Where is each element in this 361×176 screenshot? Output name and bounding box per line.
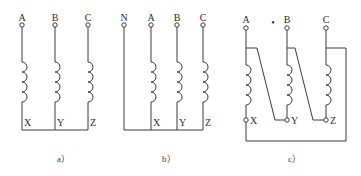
label-z: Z [90, 117, 96, 128]
label-b: B [284, 14, 291, 25]
coil-icon [177, 62, 182, 102]
caption-c: c） [288, 154, 301, 164]
phase-c-winding [201, 23, 208, 130]
caption-a: a） [57, 154, 70, 164]
label-c: C [323, 14, 330, 25]
label-a: A [147, 12, 155, 23]
label-y: Y [179, 117, 186, 128]
label-y: Y [291, 115, 298, 126]
diagram-c-delta: • A B C X Y Z c） [242, 14, 346, 164]
polarity-dot: • [271, 17, 275, 28]
terminal-b [285, 26, 289, 30]
neutral-conductor [122, 23, 126, 130]
terminal-a [244, 26, 248, 30]
link-a-to-y [246, 48, 285, 120]
label-b: B [52, 12, 59, 23]
terminal-c [201, 23, 205, 27]
coil-icon [55, 62, 60, 102]
phase-c-winding [324, 26, 331, 122]
coil-icon [246, 65, 251, 105]
terminal-b [175, 23, 179, 27]
coil-icon [326, 65, 331, 105]
phase-a-winding [149, 23, 156, 130]
link-b-to-z [287, 48, 324, 120]
coil-icon [203, 62, 208, 102]
coil-icon [287, 65, 292, 105]
label-n: N [120, 12, 127, 23]
diagram-b-star-neutral: N A B C X Y Z b） [120, 12, 211, 164]
label-y: Y [57, 117, 64, 128]
label-x: X [24, 117, 32, 128]
label-b: B [174, 12, 181, 23]
diagram-a-star: A B C X Y Z a） [18, 12, 96, 164]
label-x: X [153, 117, 161, 128]
terminal-y [285, 118, 289, 122]
terminal-a [149, 23, 153, 27]
terminal-n [122, 23, 126, 27]
label-z: Z [205, 117, 211, 128]
phase-b-winding [175, 23, 182, 130]
label-x: X [250, 115, 258, 126]
phase-b-winding [285, 26, 292, 122]
terminal-x [244, 118, 248, 122]
coil-icon [22, 62, 27, 102]
phase-b-winding [53, 23, 60, 130]
label-z: Z [330, 115, 336, 126]
terminal-c [324, 26, 328, 30]
terminal-b [53, 23, 57, 27]
coil-icon [88, 62, 93, 102]
label-a: A [18, 12, 26, 23]
label-c: C [200, 12, 207, 23]
phase-c-winding [86, 23, 93, 130]
label-a: A [242, 14, 250, 25]
terminal-z [324, 118, 328, 122]
label-c: C [85, 12, 92, 23]
winding-connection-diagrams: A B C X Y Z a） N [0, 0, 361, 176]
terminal-a [20, 23, 24, 27]
phase-a-winding [20, 23, 27, 130]
caption-b: b） [162, 154, 176, 164]
coil-icon [151, 62, 156, 102]
terminal-c [86, 23, 90, 27]
